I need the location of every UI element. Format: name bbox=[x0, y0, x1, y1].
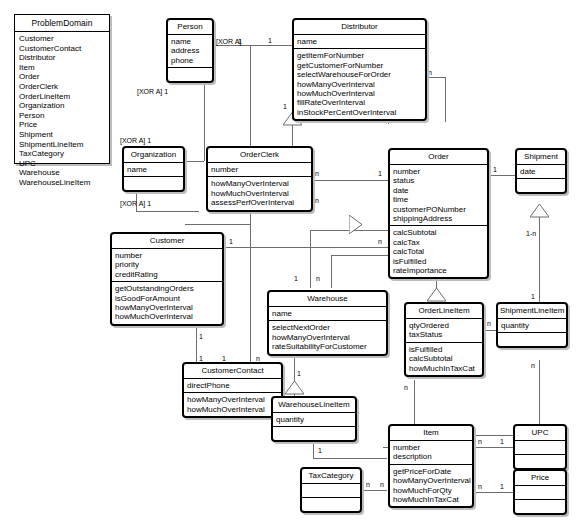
class-warehouselineitem-title: WarehouseLineItem bbox=[273, 398, 355, 413]
package-list-item[interactable]: UPC bbox=[19, 159, 105, 169]
class-item[interactable]: Item numberdescription getPriceForDateho… bbox=[388, 424, 474, 508]
multiplicity-oli-bottom: n bbox=[404, 384, 408, 392]
class-item-attributes: numberdescription bbox=[390, 441, 472, 465]
class-attribute: quantity bbox=[276, 415, 352, 424]
connector-distributor-right bbox=[427, 77, 445, 78]
class-shipment-title: Shipment bbox=[517, 150, 565, 165]
package-list-item[interactable]: Price bbox=[19, 120, 105, 130]
package-list-item[interactable]: ShipmentLineItem bbox=[19, 140, 105, 150]
class-customer[interactable]: Customer numberprioritycreditRating getO… bbox=[110, 232, 224, 326]
multiplicity-warehouse-top-n: n bbox=[316, 275, 320, 283]
class-attribute: number bbox=[211, 165, 308, 174]
class-attribute: directPhone bbox=[187, 381, 278, 390]
class-operation: howMuchInTaxCat bbox=[393, 495, 469, 504]
class-customer-attributes: numberprioritycreditRating bbox=[112, 249, 222, 282]
connector-wli-to-item-h bbox=[313, 458, 387, 459]
class-orderclerk-attributes: number bbox=[208, 163, 311, 177]
package-item-list[interactable]: CustomerCustomerContactDistributorItemOr… bbox=[15, 32, 109, 191]
package-list-item[interactable]: Organization bbox=[19, 101, 105, 111]
class-person-operations bbox=[168, 68, 212, 81]
class-operation: howMuchForQty bbox=[393, 486, 469, 495]
class-upc-operations bbox=[515, 455, 565, 468]
package-list-item[interactable]: OrderLineItem bbox=[19, 92, 105, 102]
class-orderlineitem-attributes: qtyOrderedtaxStatus bbox=[406, 319, 482, 343]
class-distributor-title: Distributor bbox=[294, 20, 425, 35]
class-customercontact-operations: howManyOverIntervalhowMuchOverInterval bbox=[184, 393, 281, 416]
class-operation: calcSubtotal bbox=[409, 354, 479, 363]
class-attribute: number bbox=[115, 251, 219, 260]
class-taxcategory-operations bbox=[302, 498, 360, 511]
class-order[interactable]: Order numberstatusdatetimecustomerPONumb… bbox=[388, 148, 489, 279]
connector-person-xor-vertical bbox=[204, 73, 205, 161]
class-attribute: name bbox=[272, 309, 383, 318]
class-order-operations: calcSubtotalcalcTaxcalcTotalisFulfilledr… bbox=[390, 226, 487, 277]
class-operation: isFulfilled bbox=[393, 257, 484, 266]
class-orderlineitem[interactable]: OrderLineItem qtyOrderedtaxStatus isFulf… bbox=[404, 302, 484, 377]
connector-organization-trunk bbox=[185, 224, 250, 225]
class-warehouse[interactable]: Warehouse name selectNextOrderhowManyOve… bbox=[267, 290, 388, 356]
multiplicity-sli-top: 1 bbox=[531, 293, 535, 301]
class-attribute: status bbox=[393, 176, 484, 185]
class-order-attributes: numberstatusdatetimecustomerPONumbership… bbox=[390, 165, 487, 226]
class-attribute: number bbox=[393, 167, 484, 176]
class-shipmentlineitem[interactable]: ShipmentLineItem quantity bbox=[496, 302, 568, 348]
class-item-title: Item bbox=[390, 426, 472, 441]
package-list-item[interactable]: CustomerContact bbox=[19, 44, 105, 54]
package-list-item[interactable]: Customer bbox=[19, 34, 105, 44]
class-operation: rateImportance bbox=[393, 266, 484, 275]
class-person[interactable]: Person nameaddressphone bbox=[166, 18, 214, 83]
class-operation: howManyOverInterval bbox=[272, 333, 383, 342]
class-orderclerk[interactable]: OrderClerk number howManyOverIntervalhow… bbox=[206, 146, 313, 212]
connector-distributor-to-order-v bbox=[445, 77, 446, 122]
package-list-item[interactable]: OrderClerk bbox=[19, 82, 105, 92]
class-operation: howManyOverInterval bbox=[393, 476, 469, 485]
class-price-attributes bbox=[515, 486, 565, 500]
class-taxcategory[interactable]: TaxCategory bbox=[300, 467, 362, 513]
class-attribute: name bbox=[171, 37, 209, 46]
class-operation: howMuchOverInterval bbox=[187, 405, 278, 414]
multiplicity-item-taxcat-n: n bbox=[380, 481, 384, 489]
xor-text-2: [XOR A] bbox=[137, 88, 162, 95]
xor-mult-3: 1 bbox=[147, 137, 151, 144]
class-customer-title: Customer bbox=[112, 234, 222, 249]
class-operation: getItemForNumber bbox=[297, 51, 422, 60]
class-shipmentlineitem-attributes: quantity bbox=[498, 319, 566, 333]
class-attribute: qtyOrdered bbox=[409, 321, 479, 330]
package-list-item[interactable]: Distributor bbox=[19, 53, 105, 63]
class-customercontact-title: CustomerContact bbox=[184, 364, 281, 379]
class-warehouselineitem[interactable]: WarehouseLineItem quantity bbox=[271, 396, 357, 442]
class-upc-attributes bbox=[515, 441, 565, 455]
class-operation: calcSubtotal bbox=[393, 228, 484, 237]
class-warehouselineitem-attributes: quantity bbox=[273, 413, 355, 427]
package-list-item[interactable]: WarehouseLineItem bbox=[19, 178, 105, 188]
xor-mult-4: 1 bbox=[147, 200, 151, 207]
package-list-item[interactable]: Order bbox=[19, 72, 105, 82]
connector-warehouse-order-h bbox=[331, 255, 388, 256]
class-customercontact[interactable]: CustomerContact directPhone howManyOverI… bbox=[182, 362, 283, 418]
package-list-item[interactable]: Warehouse bbox=[19, 168, 105, 178]
class-organization-operations bbox=[124, 177, 183, 190]
connector-xor-to-organization bbox=[136, 211, 199, 212]
multiplicity-upc-1: 1 bbox=[500, 438, 504, 446]
package-list-item[interactable]: TaxCategory bbox=[19, 149, 105, 159]
package-list-item[interactable]: Person bbox=[19, 111, 105, 121]
class-distributor-attributes: name bbox=[294, 35, 425, 49]
class-distributor[interactable]: Distributor name getItemForNumbergetCust… bbox=[292, 18, 427, 121]
class-operation: isFulfilled bbox=[409, 345, 479, 354]
connector-shipment-to-sli bbox=[539, 206, 540, 302]
class-shipment[interactable]: Shipment date bbox=[515, 148, 567, 194]
package-problemdomain[interactable]: ProblemDomain CustomerCustomerContactDis… bbox=[14, 14, 110, 164]
package-list-item[interactable]: Item bbox=[19, 63, 105, 73]
multiplicity-price-1: 1 bbox=[500, 483, 504, 491]
package-list-item[interactable]: Shipment bbox=[19, 130, 105, 140]
xor-label-organization-upper: [XOR A] 1 bbox=[120, 137, 151, 145]
package-title: ProblemDomain bbox=[15, 15, 109, 32]
class-upc[interactable]: UPC bbox=[513, 424, 567, 470]
generalization-triangle-orderlineitem bbox=[427, 288, 446, 302]
class-upc-title: UPC bbox=[515, 426, 565, 441]
class-organization[interactable]: Organization name bbox=[122, 146, 185, 192]
class-attribute: quantity bbox=[501, 321, 563, 330]
class-warehouselineitem-operations bbox=[273, 427, 355, 440]
class-price[interactable]: Price bbox=[513, 469, 567, 515]
class-operation: fillRateOverInterval bbox=[297, 98, 422, 107]
